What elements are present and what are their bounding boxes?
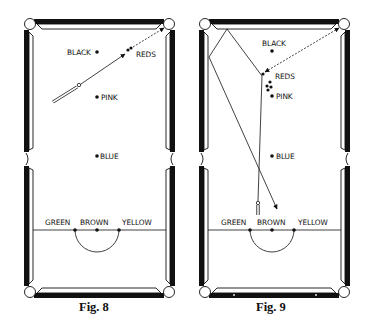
label-brown: BROWN	[257, 218, 285, 227]
pocket-top-right	[339, 19, 350, 30]
cue-ball-rebound-path	[209, 29, 277, 209]
ball-green	[73, 228, 77, 232]
object-ball-path	[265, 28, 339, 72]
pocket-top-left	[25, 19, 36, 30]
cue-ball-path	[81, 54, 125, 84]
cue-ball-path	[258, 76, 262, 201]
pocket-top-right	[164, 19, 175, 30]
ball-green	[248, 228, 252, 232]
ball-red	[265, 84, 268, 87]
ball-red	[269, 85, 272, 88]
ball-yellow	[292, 228, 296, 232]
pocket-bottom-right	[164, 287, 175, 298]
ball-red	[266, 88, 269, 91]
pocket-top-left	[200, 19, 211, 30]
ball-red	[126, 48, 129, 51]
pocket-bottom-left	[25, 287, 36, 298]
label-blue: BLUE	[276, 152, 295, 161]
figure-caption-9: Fig. 9	[256, 300, 286, 314]
ball-pink	[270, 94, 274, 98]
pocket-middle-left	[201, 153, 203, 165]
label-yellow: YELLOW	[121, 218, 152, 227]
pocket-bottom-left	[200, 287, 211, 298]
left-lower-cushion	[24, 166, 29, 286]
figure-caption-8: Fig. 8	[79, 300, 109, 314]
label-green: GREEN	[45, 218, 70, 227]
ball-brown	[270, 228, 274, 232]
left-lower-cushion	[199, 166, 204, 286]
diagram-canvas: BLACK REDS PINK BLUE GREEN BROWN YELLOW …	[0, 0, 365, 328]
ball-yellow	[117, 228, 121, 232]
bottom-cushion	[209, 293, 339, 298]
ball-brown	[95, 228, 99, 232]
the-d	[250, 230, 294, 252]
ball-red-object	[261, 72, 264, 75]
right-upper-cushion	[170, 30, 175, 152]
left-upper-cushion	[24, 30, 29, 152]
label-pink: PINK	[276, 92, 293, 101]
ball-red	[129, 46, 132, 49]
snooker-table-fig9: BLACK REDS PINK BLUE GREEN BROWN YELLOW	[199, 19, 350, 299]
bottom-cushion	[34, 293, 164, 298]
ball-blue	[270, 154, 274, 158]
right-lower-cushion	[170, 166, 175, 286]
right-lower-cushion	[345, 166, 350, 286]
pocket-middle-right	[346, 153, 348, 165]
ball-black	[95, 50, 99, 54]
pocket-middle-left	[26, 153, 28, 165]
left-upper-cushion	[199, 30, 204, 152]
snooker-table-fig8: BLACK REDS PINK BLUE GREEN BROWN YELLOW	[24, 19, 175, 299]
cue-ball	[256, 201, 259, 204]
the-d	[75, 230, 119, 252]
label-reds: REDS	[275, 72, 295, 81]
pocket-bottom-right	[339, 287, 350, 298]
ball-red	[268, 80, 271, 83]
label-black: BLACK	[262, 39, 286, 48]
label-black: BLACK	[67, 48, 91, 57]
label-brown: BROWN	[80, 218, 108, 227]
label-reds: REDS	[136, 50, 156, 59]
ball-pink	[95, 95, 99, 99]
label-blue: BLUE	[100, 152, 119, 161]
cue-ball	[77, 83, 80, 86]
right-upper-cushion	[345, 30, 350, 152]
ball-blue	[95, 154, 99, 158]
label-green: GREEN	[221, 218, 246, 227]
top-cushion	[34, 19, 164, 24]
label-pink: PINK	[101, 93, 118, 102]
ball-black	[270, 49, 274, 53]
pocket-middle-right	[171, 153, 173, 165]
label-yellow: YELLOW	[297, 218, 328, 227]
object-ball-path	[133, 28, 164, 47]
top-cushion	[209, 19, 339, 24]
